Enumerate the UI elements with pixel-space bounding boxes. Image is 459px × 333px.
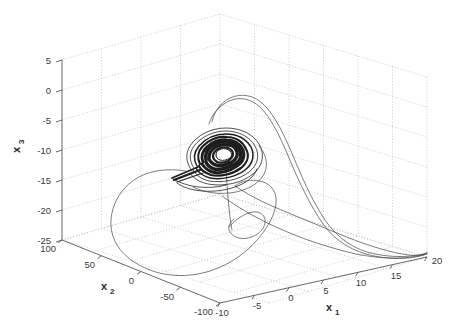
- axis-x1-title: x 1: [326, 301, 340, 317]
- x2-tick-label-3: -50: [160, 291, 174, 302]
- axis-x2-title-text: x: [101, 280, 108, 292]
- axis-x1-title-subscript: 1: [335, 308, 340, 317]
- x1-tick-label-3: 5: [323, 285, 328, 296]
- x1-tick-label-1: -5: [253, 300, 261, 311]
- z-tick-label-2: -5: [43, 115, 51, 126]
- axis-z-ticks: 5 0 -5 -10 -15 -20 -25: [37, 55, 62, 246]
- x2-tick-label-0: 100: [40, 243, 56, 254]
- axis-x2-title: x 2: [101, 280, 115, 296]
- x2-tick-label-4: -100: [194, 306, 213, 317]
- axis-x2-title-subscript: 2: [110, 287, 115, 296]
- x1-tick-label-4: 10: [356, 277, 367, 288]
- spiral-core: [172, 128, 266, 193]
- axis-z-title-text: x: [10, 146, 22, 153]
- x1-tick-label-5: 15: [391, 270, 402, 281]
- attractor-trajectory: [111, 95, 427, 275]
- z-tick-label-1: 0: [46, 85, 51, 96]
- axis-x2-ticks: 100 50 0 -50 -100: [40, 240, 220, 317]
- x1-tick-label-2: 0: [288, 292, 293, 303]
- axis-x1-title-text: x: [326, 301, 333, 313]
- grid-back-left-wall: [62, 14, 220, 240]
- x2-tick-label-2: 0: [129, 275, 134, 286]
- z-tick-label-0: 5: [46, 55, 51, 66]
- axis-z-title-subscript: 3: [17, 139, 26, 144]
- z-tick-label-5: -20: [37, 205, 51, 216]
- figure-canvas: 5 0 -5 -10 -15 -20 -25 100 50 0 -50 -100: [0, 0, 459, 333]
- x1-tick-label-0: -10: [215, 307, 229, 318]
- z-tick-label-3: -10: [37, 145, 51, 156]
- z-tick-label-4: -15: [37, 175, 51, 186]
- x1-tick-label-6: 20: [432, 255, 443, 266]
- axis-z-title: x 3: [10, 139, 26, 153]
- x2-tick-label-1: 50: [84, 259, 95, 270]
- plot-3d-axes: 5 0 -5 -10 -15 -20 -25 100 50 0 -50 -100: [0, 0, 459, 333]
